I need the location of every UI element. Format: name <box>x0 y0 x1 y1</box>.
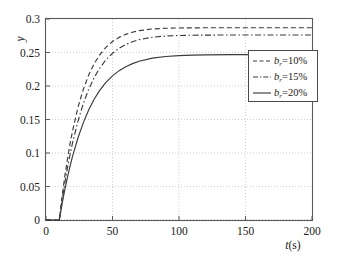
x-axis-label-text: t(s) <box>285 239 301 252</box>
y-tick-label: 0.15 <box>20 114 40 126</box>
chart-legend: br=10%br=15%br=20% <box>249 51 318 102</box>
x-tick-label: 150 <box>237 225 255 237</box>
y-tick-label: 0 <box>34 214 40 226</box>
y-axis-label: y <box>14 36 27 43</box>
y-tick-label: 0.25 <box>20 47 40 59</box>
x-tick-label: 0 <box>43 225 49 237</box>
y-tick-label: 0.3 <box>26 13 41 25</box>
y-tick-label: 0.2 <box>26 80 41 92</box>
x-tick-label: 100 <box>170 225 188 237</box>
x-tick-label: 50 <box>107 225 119 237</box>
y-tick-label: 0.05 <box>20 181 40 193</box>
x-axis-label: t(s) <box>285 239 301 252</box>
chart-figure: 00.050.10.150.20.250.3 050100150200 y t(… <box>0 0 340 273</box>
x-tick-label: 200 <box>303 225 321 237</box>
y-tick-label: 0.1 <box>26 147 41 159</box>
